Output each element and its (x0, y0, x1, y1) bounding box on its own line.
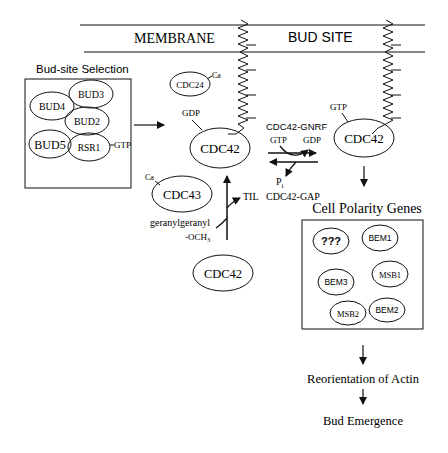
bud-site-selection: Bud-site Selection BUD4 BUD3 BUD2 BUD5 R… (25, 63, 131, 188)
bud-site-label: BUD SITE (288, 29, 353, 45)
actin-reorientation-label: Reorientation of Actin (307, 372, 420, 386)
rsr1-label: RSR1 (78, 143, 101, 153)
msb1-label: MSB1 (379, 270, 401, 280)
cdc42-unmodified-text: CDC42 (204, 267, 242, 281)
membrane: MEMBRANE BUD SITE (80, 25, 425, 52)
gtp-in-label: GTP (270, 135, 287, 145)
och3-label: -OCH3 (185, 232, 210, 243)
cdc42-unmodified-node: CDC42 (193, 255, 253, 291)
cdc42-gtp-node: GTP CDC42 (330, 102, 394, 157)
bem2-label: BEM2 (375, 305, 398, 315)
gnrf-label: CDC42-GNRF (266, 121, 327, 132)
gdp-out-label: GDP (303, 135, 321, 145)
cdc43-node: Ca CDC43 (145, 173, 212, 212)
bud5-label: BUD5 (34, 138, 65, 152)
rsr1-gtp-label: GTP (114, 140, 131, 150)
bem3-label: BEM3 (324, 277, 347, 287)
cdc24-node: CDC24 Ca (170, 71, 221, 96)
lipid-anchor-left (228, 20, 256, 134)
cdc24-label: CDC24 (176, 80, 204, 90)
membrane-label: MEMBRANE (134, 31, 215, 46)
bem1-label: BEM1 (368, 233, 391, 243)
bud3-label: BUD3 (78, 89, 104, 100)
bud-site-selection-title: Bud-site Selection (36, 63, 129, 75)
cell-polarity-genes: Cell Polarity Genes ??? BEM1 BEM3 MSB1 M… (302, 201, 423, 329)
bud-emergence-label: Bud Emergence (323, 414, 403, 428)
bud2-label: BUD2 (74, 116, 100, 127)
pi-label: Pi (276, 176, 284, 190)
cdc24-ca-label: Ca (212, 71, 221, 80)
msb2-label: MSB2 (337, 309, 359, 319)
cdc43-label: CDC43 (163, 188, 201, 202)
cdc43-ca-label: Ca (145, 173, 154, 182)
cdc42-gdp-label: GDP (182, 108, 200, 118)
unknown-label: ??? (321, 235, 341, 247)
lipid-anchor-right (372, 20, 401, 134)
cell-polarity-title: Cell Polarity Genes (312, 201, 422, 216)
cdc42-gdp-text: CDC42 (200, 141, 240, 156)
cdc42-pathway-diagram: MEMBRANE BUD SITE Bud-site Selection BUD… (0, 0, 448, 453)
cdc42-gtp-label: GTP (330, 102, 347, 112)
til-label: TIL (243, 191, 259, 202)
cdc42-gtp-text: CDC42 (344, 131, 384, 146)
bud4-label: BUD4 (39, 101, 65, 112)
geranylgeranyl-label: geranylgeranyl (150, 217, 210, 228)
gtp-exchange: CDC42-GNRF GTP GDP Pi CDC42-GAP (266, 121, 327, 202)
